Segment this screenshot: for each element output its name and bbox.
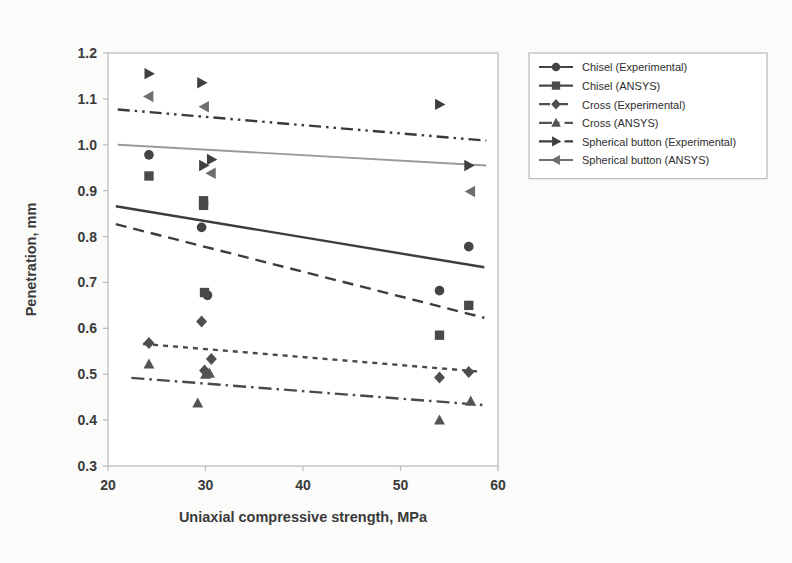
y-axis: 0.30.40.50.60.70.80.91.01.11.2 (78, 45, 108, 474)
square-marker (552, 81, 560, 89)
legend-label: Cross (Experimental) (582, 99, 685, 111)
circle-marker (552, 63, 561, 72)
square-marker (200, 288, 209, 297)
x-tick-label: 30 (198, 477, 214, 493)
circle-marker (464, 242, 474, 252)
scatter-plot: 2030405060 0.30.40.50.60.70.80.91.01.11.… (0, 0, 792, 563)
chart-legend[interactable]: Chisel (Experimental)Chisel (ANSYS)Cross… (529, 53, 767, 179)
chart-figure: 2030405060 0.30.40.50.60.70.80.91.01.11.… (0, 0, 792, 563)
y-tick-label: 0.4 (78, 412, 98, 428)
square-marker (435, 331, 444, 340)
circle-marker (144, 150, 154, 160)
square-marker (199, 201, 208, 210)
y-tick-label: 1.0 (78, 137, 98, 153)
y-tick-label: 0.3 (78, 458, 98, 474)
x-tick-label: 20 (100, 477, 116, 493)
circle-marker (197, 223, 207, 233)
legend-label: Chisel (Experimental) (582, 61, 687, 73)
y-axis-label: Penetration, mm (23, 203, 39, 317)
y-tick-label: 0.8 (78, 229, 98, 245)
circle-marker (435, 286, 445, 296)
square-marker (464, 301, 473, 310)
square-marker (144, 171, 153, 180)
x-tick-label: 60 (490, 477, 506, 493)
y-tick-label: 0.9 (78, 183, 98, 199)
legend-label: Spherical button (ANSYS) (582, 154, 709, 166)
y-tick-label: 1.2 (78, 45, 98, 61)
y-tick-label: 0.6 (78, 320, 98, 336)
legend-label: Cross (ANSYS) (582, 117, 658, 129)
y-tick-label: 1.1 (78, 91, 98, 107)
x-tick-label: 40 (295, 477, 311, 493)
legend-label: Chisel (ANSYS) (582, 80, 660, 92)
x-axis: 2030405060 (100, 466, 506, 493)
legend-label: Spherical button (Experimental) (582, 136, 736, 148)
x-axis-label: Uniaxial compressive strength, MPa (179, 509, 428, 525)
x-tick-label: 50 (393, 477, 409, 493)
y-tick-label: 0.7 (78, 274, 98, 290)
y-tick-label: 0.5 (78, 366, 98, 382)
